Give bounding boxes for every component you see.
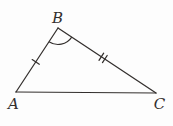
triangle-diagram: A B C	[0, 0, 173, 126]
tick-mark-bc-1	[99, 53, 104, 60]
vertex-label-c: C	[154, 95, 166, 113]
tick-marks	[32, 53, 107, 64]
angle-arc-b	[49, 37, 72, 44]
tick-mark-ab-1	[32, 60, 39, 65]
triangle-side-bc	[58, 28, 156, 93]
tick-mark-bc-2	[102, 56, 107, 63]
triangle-side-ab	[16, 28, 58, 92]
diagram-page: A B C	[0, 0, 173, 126]
vertex-label-a: A	[6, 95, 19, 113]
vertex-label-b: B	[51, 9, 63, 27]
triangle-side-ca	[16, 92, 156, 93]
